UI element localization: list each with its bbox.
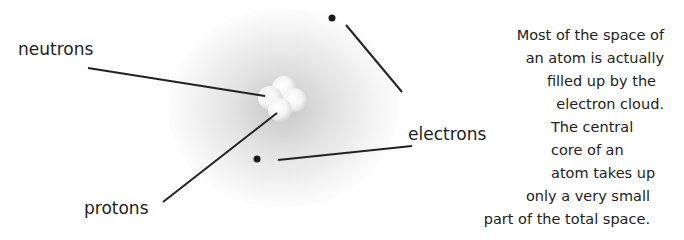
electron-top <box>329 15 336 22</box>
label-neutrons: neutrons <box>18 39 93 59</box>
description-line: Most of the space of <box>517 24 664 47</box>
label-protons: protons <box>84 198 149 218</box>
description-line: atom takes up <box>551 162 655 185</box>
neutrons-leader-line <box>88 68 265 96</box>
electron-bottom <box>254 156 261 163</box>
description-line: part of the total space. <box>484 208 650 231</box>
atom-diagram: neutrons protons electrons Most of the s… <box>0 0 684 240</box>
description-line: filled up by the <box>547 70 656 93</box>
description-text: Most of the space of an atom is actually… <box>440 0 664 240</box>
electron-top-leader-line <box>346 25 402 92</box>
description-line: core of an <box>551 139 624 162</box>
description-line: electron cloud. <box>556 93 664 116</box>
description-line: an atom is actually <box>526 47 664 70</box>
description-line: The central <box>551 116 633 139</box>
electron-bottom-leader-line <box>278 146 412 160</box>
description-line: only a very small <box>526 185 650 208</box>
